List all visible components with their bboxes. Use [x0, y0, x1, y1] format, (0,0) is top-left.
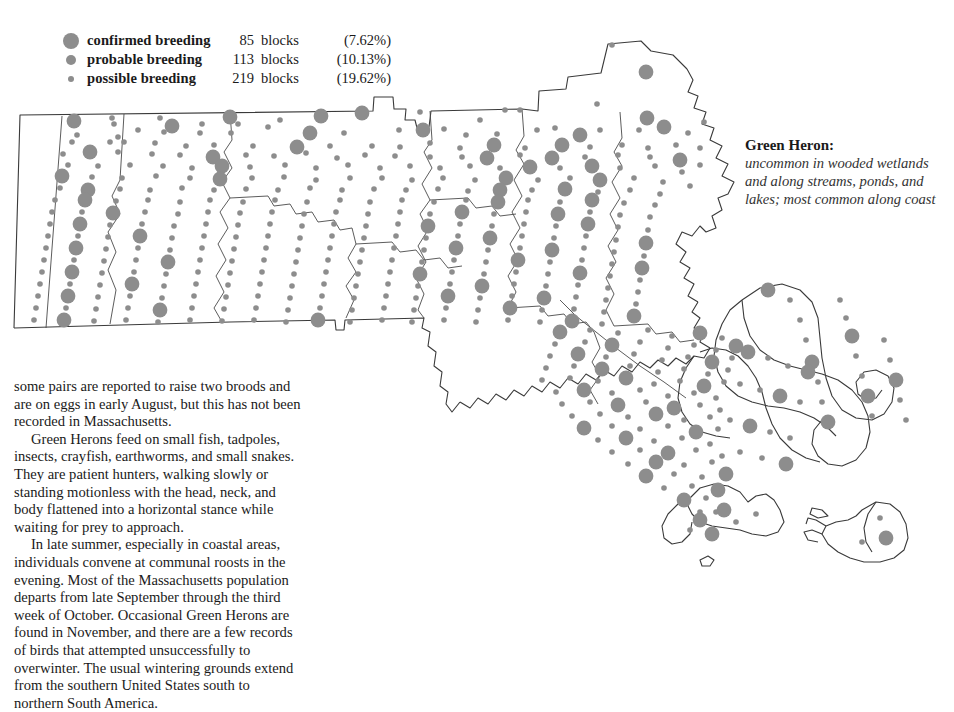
- breeding-dot: [397, 209, 403, 215]
- breeding-dot: [669, 333, 675, 339]
- breeding-dot: [157, 115, 163, 121]
- breeding-dot: [399, 197, 405, 203]
- breeding-dot: [251, 317, 257, 323]
- breeding-dot: [517, 152, 523, 158]
- breeding-dot: [105, 234, 111, 240]
- breeding-dot: [645, 227, 651, 233]
- breeding-dot: [379, 317, 385, 323]
- breeding-dot: [131, 269, 137, 275]
- breeding-dot: [660, 179, 666, 185]
- breeding-dot: [339, 187, 345, 193]
- breeding-dot: [681, 417, 687, 423]
- breeding-dot: [733, 519, 739, 525]
- breeding-dot: [69, 139, 75, 145]
- breeding-dot: [283, 319, 289, 325]
- breeding-dot: [83, 145, 98, 160]
- breeding-dot: [757, 387, 763, 393]
- breeding-dot: [609, 423, 615, 429]
- breeding-dot: [55, 169, 70, 184]
- breeding-dot: [371, 186, 377, 192]
- breeding-dot: [707, 441, 713, 447]
- breeding-dot: [691, 342, 697, 348]
- breeding-dot: [177, 199, 183, 205]
- breeding-dot: [67, 114, 82, 129]
- breeding-dot: [615, 152, 621, 158]
- breeding-dot: [392, 153, 398, 159]
- breeding-dot: [625, 414, 631, 420]
- breeding-dot: [435, 186, 441, 192]
- breeding-dot: [743, 419, 758, 434]
- breeding-dot: [107, 222, 113, 228]
- breeding-dot: [497, 165, 503, 171]
- species-caption: Green Heron: uncommon in wooded wetlands…: [745, 137, 945, 209]
- breeding-dot: [615, 224, 621, 230]
- breeding-dot: [379, 175, 385, 181]
- legend-unit-confirmed: blocks: [254, 32, 317, 49]
- breeding-dot: [573, 266, 588, 281]
- breeding-dot: [281, 174, 287, 180]
- breeding-dot: [463, 197, 469, 203]
- breeding-dot: [843, 315, 849, 321]
- breeding-dot: [537, 291, 552, 306]
- breeding-dot: [431, 199, 437, 205]
- breeding-dot: [395, 221, 401, 227]
- breeding-dot: [621, 200, 627, 206]
- breeding-dot: [637, 426, 643, 432]
- breeding-dot: [539, 377, 545, 383]
- breeding-dot: [679, 169, 685, 175]
- breeding-dot: [341, 130, 347, 136]
- breeding-dot: [511, 281, 517, 287]
- breeding-dot: [577, 383, 592, 398]
- breeding-dot: [265, 124, 271, 130]
- breeding-dot: [879, 531, 894, 546]
- breeding-dot: [223, 110, 238, 125]
- breeding-dot: [502, 107, 508, 113]
- breeding-dot: [407, 163, 413, 169]
- breeding-dot: [585, 159, 600, 174]
- breeding-dot: [201, 233, 207, 239]
- breeding-dot: [33, 305, 39, 311]
- breeding-dot: [485, 247, 491, 253]
- breeding-dot: [277, 117, 283, 123]
- breeding-dot: [571, 306, 577, 312]
- breeding-dot: [477, 117, 483, 123]
- breeding-dot: [480, 151, 495, 166]
- breeding-dot: [689, 483, 695, 489]
- breeding-dot: [303, 150, 309, 156]
- breeding-dot: [697, 145, 703, 151]
- breeding-dot: [89, 174, 95, 180]
- breeding-dot: [557, 165, 563, 171]
- legend-unit-probable: blocks: [254, 51, 317, 68]
- legend-percent-confirmed: (7.62%): [317, 32, 391, 49]
- breeding-dot: [199, 121, 205, 127]
- breeding-dot: [582, 339, 588, 345]
- breeding-dot: [393, 233, 399, 239]
- breeding-dot: [191, 293, 197, 299]
- breeding-dot: [679, 435, 685, 441]
- breeding-dot: [491, 211, 497, 217]
- breeding-dot: [609, 261, 615, 267]
- breeding-dot: [67, 281, 73, 287]
- breeding-dot: [115, 134, 121, 140]
- breeding-dot: [719, 453, 725, 459]
- breeding-dot: [457, 145, 463, 151]
- breeding-dot: [165, 119, 180, 134]
- legend-row-probable: probable breeding 113 blocks (10.13%): [55, 50, 395, 69]
- breeding-dot: [673, 153, 688, 168]
- breeding-dot: [271, 153, 277, 159]
- breeding-dot: [319, 293, 325, 299]
- breeding-dot: [357, 259, 363, 265]
- breeding-dot: [331, 221, 337, 227]
- breeding-dot: [43, 245, 49, 251]
- breeding-dot: [119, 175, 125, 181]
- breeding-dot: [63, 305, 69, 311]
- article-body: some pairs are reported to raise two bro…: [14, 378, 302, 712]
- breeding-dot: [853, 353, 859, 359]
- breeding-dot: [205, 209, 211, 215]
- breeding-dot: [635, 261, 650, 276]
- breeding-dot: [233, 234, 239, 240]
- breeding-dot: [534, 127, 540, 133]
- breeding-dot: [599, 321, 605, 327]
- breeding-dot: [301, 211, 307, 217]
- breeding-dot: [581, 245, 587, 251]
